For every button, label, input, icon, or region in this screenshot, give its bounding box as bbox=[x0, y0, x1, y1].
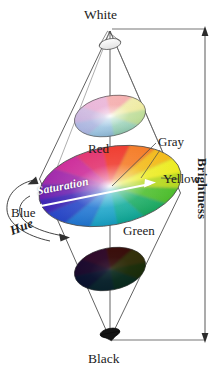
label-brightness-axis: Brightness bbox=[196, 158, 209, 219]
color-cone-svg bbox=[0, 0, 220, 375]
label-green: Green bbox=[123, 224, 155, 237]
label-red: Red bbox=[88, 142, 109, 155]
label-gray: Gray bbox=[158, 135, 184, 148]
label-black: Black bbox=[88, 352, 120, 366]
white-apex-cap bbox=[97, 29, 122, 51]
label-white: White bbox=[84, 8, 117, 22]
hsb-color-cone-figure: White Red Gray Yellow Green Blue Black H… bbox=[0, 0, 220, 375]
